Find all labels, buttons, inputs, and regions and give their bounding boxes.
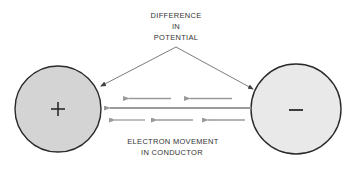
pointer-arrow-left — [101, 47, 176, 86]
negative-sphere — [251, 64, 341, 154]
difference-label-line-1: DIFFERENCE — [151, 11, 202, 20]
difference-label-line-3: POTENTIAL — [154, 33, 198, 42]
difference-label-line-2: IN — [172, 22, 180, 31]
electron-movement-label-line-2: IN CONDUCTOR — [141, 148, 203, 157]
pointer-arrow-right — [176, 47, 253, 89]
electron-arrows — [110, 99, 251, 121]
negative-terminal — [251, 64, 341, 154]
positive-terminal — [15, 66, 101, 152]
electron-movement-label-line-1: ELECTRON MOVEMENT — [127, 137, 218, 146]
electron-flow-diagram: DIFFERENCE IN POTENTIAL ELECTRON MOVEMEN… — [0, 0, 354, 170]
